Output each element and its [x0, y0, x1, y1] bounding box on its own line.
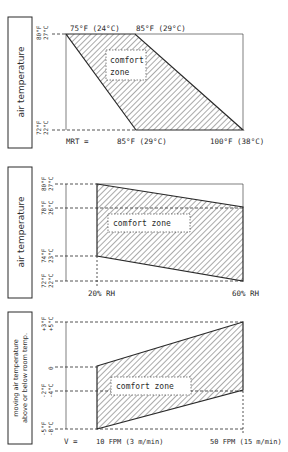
y-tick-f: 78°F [40, 200, 47, 215]
y-tick-c: 22°C [42, 120, 49, 135]
comfort-zone-area [97, 322, 243, 429]
bottom-label: 85°F (29°C) [117, 137, 167, 146]
y-tick-c: -4°C [47, 383, 54, 398]
y-tick-f: 80°F [40, 176, 47, 191]
comfort-zone-label: comfort zone [113, 219, 171, 228]
y-tick-c: 27°C [42, 25, 49, 40]
y-tick-f: -2°F [40, 383, 47, 398]
top-label: 75°F (24°C) [70, 24, 120, 33]
side-label: above or below room temp. [21, 333, 29, 423]
bottom-label: 50 FPM (15 m/min) [210, 438, 282, 446]
y-tick-c: 23°C [47, 248, 54, 263]
y-tick-c: 27°C [47, 176, 54, 191]
side-label: air temperature [16, 196, 26, 268]
comfort-zone-diagram: air temperature 80°F 27°C 72°F 22°C comf… [0, 0, 288, 452]
bottom-label: 10 FPM (3 m/min) [96, 438, 163, 446]
bottom-label: 20% RH [88, 289, 116, 298]
y-tick-f: 80°F [35, 25, 42, 40]
comfort-zone-label: comfort [110, 56, 144, 65]
bottom-prefix: MRT = [66, 137, 89, 146]
y-tick-c: 22°C [47, 273, 54, 288]
panel-air-velocity: moving air temperature above or below ro… [8, 312, 282, 446]
side-label: moving air temperature [12, 339, 20, 417]
y-tick-c: +5°C [47, 316, 54, 331]
comfort-zone-area [97, 184, 243, 281]
bottom-label: 60% RH [232, 289, 260, 298]
panel-relative-humidity: air temperature 80°F 27°C 78°F 26°C 74°F… [8, 167, 260, 298]
y-tick-f: 0 [47, 366, 54, 370]
y-tick-c: -8°C [47, 421, 54, 436]
bottom-prefix: V = [64, 437, 78, 446]
y-tick-f: 72°F [35, 120, 42, 135]
comfort-zone-area [66, 34, 243, 130]
comfort-zone-label: comfort zone [116, 382, 174, 391]
y-tick-f: -5°F [40, 421, 47, 436]
side-label: air temperature [16, 46, 26, 118]
top-label: 85°F (29°C) [136, 24, 186, 33]
panel-mrt: air temperature 80°F 27°C 72°F 22°C comf… [8, 17, 264, 148]
bottom-label: 100°F (38°C) [210, 137, 264, 146]
comfort-zone-label: zone [110, 68, 129, 77]
y-tick-f: 72°F [40, 273, 47, 288]
y-tick-f: 74°F [40, 248, 47, 263]
y-tick-f: +3°F [40, 316, 47, 331]
y-tick-c: 26°C [47, 200, 54, 215]
